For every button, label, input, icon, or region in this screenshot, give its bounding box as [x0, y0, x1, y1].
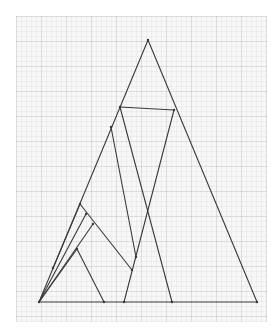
- segment-GM: [53, 204, 80, 268]
- vertex-L: [131, 269, 133, 271]
- vertex-R: [171, 301, 173, 303]
- vertex-A: [38, 301, 40, 303]
- vertex-D: [119, 106, 121, 108]
- segment-DR: [120, 107, 172, 302]
- vertex-P: [103, 301, 105, 303]
- segment-FK: [111, 127, 136, 257]
- vertex-H: [85, 213, 87, 215]
- segment-DE: [120, 107, 174, 110]
- segment-JP: [77, 249, 104, 302]
- segment-GL: [80, 204, 132, 270]
- vertex-M: [52, 267, 54, 269]
- vertex-Q: [123, 301, 125, 303]
- vertex-J: [76, 248, 78, 250]
- vertex-F: [110, 126, 112, 128]
- vertex-E: [173, 109, 175, 111]
- segment-BC: [148, 40, 257, 302]
- vertex-B: [256, 301, 258, 303]
- vertex-G: [79, 203, 81, 205]
- vertex-I: [92, 223, 94, 225]
- segment-EQ: [124, 110, 174, 302]
- segment-HA: [39, 214, 86, 302]
- vertex-K: [135, 256, 137, 258]
- vertex-C: [147, 39, 149, 41]
- triangle-diagram: [0, 0, 280, 331]
